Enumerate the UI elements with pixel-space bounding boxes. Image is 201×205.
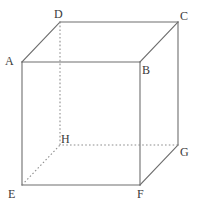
vertex-label-f: F — [137, 188, 144, 200]
vertex-label-c: C — [180, 10, 188, 22]
vertex-label-b: B — [142, 64, 150, 76]
cube-edge-bc — [140, 22, 178, 62]
cube-edge-ad — [22, 22, 60, 62]
vertex-label-h: H — [61, 133, 70, 145]
cube-svg-canvas — [0, 0, 201, 205]
cube-edge-fg — [140, 145, 178, 185]
vertex-label-g: G — [180, 146, 189, 158]
cube-edge-eh — [22, 145, 60, 185]
vertex-label-d: D — [54, 8, 63, 20]
vertex-label-a: A — [5, 55, 14, 67]
solid-edges-group — [22, 22, 178, 185]
cube-diagram: ABCDEFGH — [0, 0, 201, 205]
vertex-label-e: E — [8, 188, 15, 200]
